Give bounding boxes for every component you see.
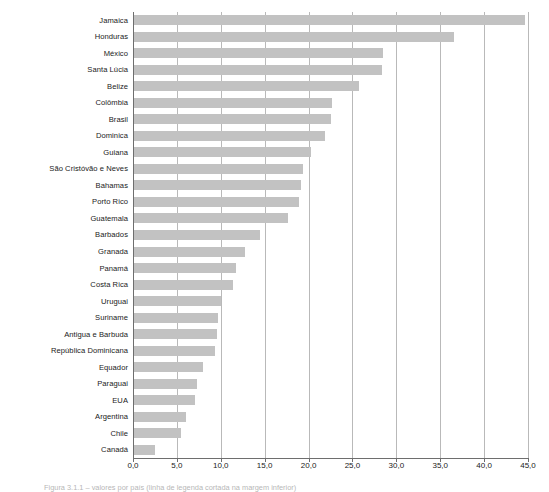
category-label: Costa Rica [0,280,128,289]
bar-row: Porto Rico [0,194,549,211]
x-tick-label: 25,0 [345,461,361,471]
bar [134,230,260,240]
bar-row: Colômbia [0,95,549,112]
x-axis-tick-labels: 0,05,010,015,020,025,030,035,040,045,0 [0,461,549,473]
category-label: São Cristóvão e Neves [0,164,128,173]
category-label: Guiana [0,148,128,157]
category-label: Canadá [0,445,128,454]
bar-row: Honduras [0,29,549,46]
bar [134,395,195,405]
bar-row: Bahamas [0,177,549,194]
bar [134,280,233,290]
bar [134,180,301,190]
x-tick-label: 45,0 [520,461,536,471]
x-tick-label: 40,0 [476,461,492,471]
bar-row: Guiana [0,144,549,161]
bar [134,213,288,223]
category-label: Equador [0,363,128,372]
bar [134,329,217,339]
bar [134,131,325,141]
category-label: EUA [0,396,128,405]
x-tick-label: 5,0 [171,461,182,471]
bar-row: Chile [0,425,549,442]
bar [134,346,215,356]
category-label: Chile [0,429,128,438]
bar-row: Antigua e Barbuda [0,326,549,343]
bar [134,263,236,273]
bar [134,81,359,91]
bar [134,65,382,75]
bar-row: Suriname [0,309,549,326]
bar-row: Panamá [0,260,549,277]
bar [134,445,155,455]
bar [134,48,383,58]
bar [134,428,181,438]
bar-row: Belize [0,78,549,95]
bar-row: Brasil [0,111,549,128]
bar-chart: JamaicaHondurasMéxicoSanta LúciaBelizeCo… [0,0,549,470]
category-label: República Dominicana [0,346,128,355]
bar [134,98,332,108]
bar [134,114,331,124]
category-label: Jamaica [0,16,128,25]
bar [134,379,197,389]
bar-row: Dominica [0,128,549,145]
bar-row: México [0,45,549,62]
category-label: Paraguai [0,379,128,388]
bar-row: República Dominicana [0,342,549,359]
category-label: Antigua e Barbuda [0,330,128,339]
x-tick-label: 10,0 [213,461,229,471]
bar-row: Canadá [0,441,549,458]
category-label: Dominica [0,131,128,140]
category-label: Suriname [0,313,128,322]
bar-row: Granada [0,243,549,260]
bar-row: Argentina [0,408,549,425]
bar-row: Santa Lúcia [0,62,549,79]
category-label: Brasil [0,115,128,124]
category-label: Guatemala [0,214,128,223]
category-label: Panamá [0,264,128,273]
bar [134,197,299,207]
bar-row: Jamaica [0,12,549,29]
category-label: Belize [0,82,128,91]
bar [134,247,245,257]
bar-row: Paraguai [0,375,549,392]
category-label: Argentina [0,412,128,421]
category-label: Granada [0,247,128,256]
bar-row: EUA [0,392,549,409]
bar [134,313,218,323]
x-tick-label: 0,0 [127,461,138,471]
bar [134,15,525,25]
bar-row: Uruguai [0,293,549,310]
bar [134,32,454,42]
bar-row: Costa Rica [0,276,549,293]
figure-caption: Figura 3.1.1 – valores por país (linha d… [44,483,549,492]
category-label: Porto Rico [0,197,128,206]
category-label: Honduras [0,32,128,41]
bar-row: São Cristóvão e Neves [0,161,549,178]
x-tick-label: 30,0 [389,461,405,471]
figure-container: JamaicaHondurasMéxicoSanta LúciaBelizeCo… [0,0,549,492]
bar-rows: JamaicaHondurasMéxicoSanta LúciaBelizeCo… [0,12,549,458]
category-label: Santa Lúcia [0,65,128,74]
bar-row: Equador [0,359,549,376]
bar [134,362,203,372]
bar-row: Barbados [0,227,549,244]
category-label: Uruguai [0,297,128,306]
category-label: Barbados [0,230,128,239]
bar [134,147,311,157]
x-tick-label: 15,0 [257,461,273,471]
category-label: Bahamas [0,181,128,190]
bar [134,412,186,422]
x-tick-label: 35,0 [432,461,448,471]
x-tick-label: 20,0 [301,461,317,471]
bar-row: Guatemala [0,210,549,227]
category-label: Colômbia [0,98,128,107]
category-label: México [0,49,128,58]
bar [134,164,303,174]
bar [134,296,221,306]
